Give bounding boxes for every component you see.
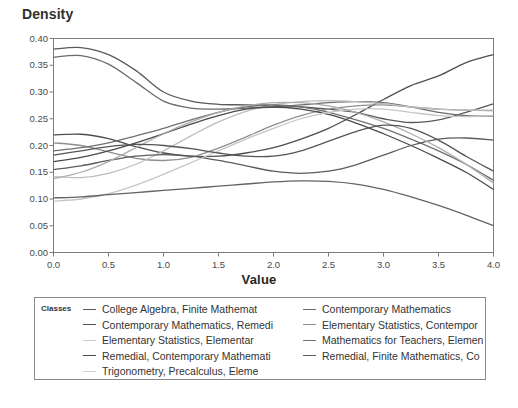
x-tick-label: 4.0 [479, 259, 509, 270]
x-axis-ticks [54, 253, 494, 257]
x-tick-label: 2.5 [314, 259, 344, 270]
y-axis-ticks [50, 39, 54, 253]
y-tick-label: 0.30 [14, 86, 48, 97]
legend-line-swatch-icon [83, 355, 96, 356]
y-tick-label: 0.05 [14, 220, 48, 231]
legend-item[interactable]: Remedial, Contemporary Mathemati [83, 350, 298, 362]
legend-item-label: Mathematics for Teachers, Elemen [322, 334, 483, 346]
y-tick-label: 0.25 [14, 113, 48, 124]
legend-line-swatch-icon [83, 324, 96, 325]
legend-item[interactable]: Elementary Statistics, Contempor [303, 319, 518, 331]
y-tick-label: 0.10 [14, 193, 48, 204]
density-chart: Density 0.000.050.100.150.200.250.300.35… [0, 0, 518, 408]
x-tick-label: 1.0 [149, 259, 179, 270]
legend-item[interactable]: Mathematics for Teachers, Elemen [303, 334, 518, 346]
legend-line-swatch-icon [83, 371, 96, 372]
legend-item-label: Elementary Statistics, Contempor [322, 319, 478, 331]
legend-line-swatch-icon [303, 324, 316, 325]
x-axis-title: Value [0, 272, 518, 287]
legend-item-label: Elementary Statistics, Elementar [102, 334, 254, 346]
legend-line-swatch-icon [303, 340, 316, 341]
legend-item[interactable]: Elementary Statistics, Elementar [83, 334, 298, 346]
x-tick-label: 3.5 [424, 259, 454, 270]
legend-line-swatch-icon [83, 340, 96, 341]
y-tick-label: 0.40 [14, 33, 48, 44]
legend-title: Classes [41, 304, 71, 313]
legend-item-label: Remedial, Contemporary Mathemati [102, 350, 271, 362]
legend-line-swatch-icon [303, 309, 316, 310]
y-tick-label: 0.00 [14, 247, 48, 258]
x-tick-label: 2.0 [259, 259, 289, 270]
legend: Classes College Algebra, Finite Mathemat… [34, 297, 486, 380]
legend-item[interactable]: College Algebra, Finite Mathemat [83, 303, 298, 315]
y-tick-label: 0.15 [14, 166, 48, 177]
legend-item[interactable]: Contemporary Mathematics, Remedi [83, 319, 298, 331]
legend-item[interactable]: Remedial, Finite Mathematics, Co [303, 350, 518, 362]
y-tick-label: 0.20 [14, 140, 48, 151]
x-tick-label: 0.5 [94, 259, 124, 270]
x-tick-label: 0.0 [39, 259, 69, 270]
legend-item-label: Contemporary Mathematics, Remedi [102, 319, 273, 331]
x-tick-label: 3.0 [369, 259, 399, 270]
legend-item-label: College Algebra, Finite Mathemat [102, 303, 257, 315]
y-tick-label: 0.35 [14, 59, 48, 70]
legend-item[interactable]: Contemporary Mathematics [303, 303, 518, 315]
legend-item-label: Remedial, Finite Mathematics, Co [322, 350, 480, 362]
legend-line-swatch-icon [303, 355, 316, 356]
legend-item[interactable]: Trigonometry, Precalculus, Eleme [83, 365, 298, 377]
legend-item-label: Trigonometry, Precalculus, Eleme [102, 365, 258, 377]
legend-item-label: Contemporary Mathematics [322, 303, 451, 315]
x-tick-label: 1.5 [204, 259, 234, 270]
legend-line-swatch-icon [83, 309, 96, 310]
